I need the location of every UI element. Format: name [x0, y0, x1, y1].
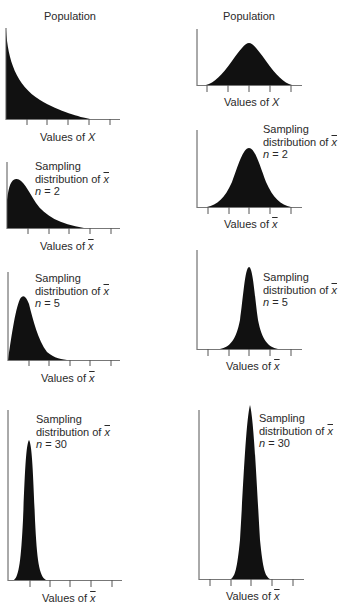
caption-line3: n = 2 — [35, 185, 109, 198]
caption-line2: distribution of x — [263, 284, 337, 297]
left-n30-axis-label: Values of x — [42, 592, 96, 605]
caption-line2: distribution of x — [263, 136, 337, 149]
caption-line2: distribution of x — [36, 426, 110, 439]
caption-line1: Sampling — [35, 272, 109, 285]
left-n5-caption: Sampling distribution of x n = 5 — [35, 272, 109, 310]
caption-line2: distribution of x — [35, 285, 109, 298]
caption-line1: Sampling — [35, 160, 109, 173]
left-population-plot — [6, 28, 120, 125]
right-n2-axis-label: Values of x — [224, 218, 278, 231]
right-population-title: Population — [223, 10, 275, 23]
right-population-plot — [197, 29, 302, 92]
right-n30-axis-label: Values of x — [226, 590, 280, 603]
right-n2-caption: Sampling distribution of x n = 2 — [263, 123, 337, 161]
caption-line3: n = 5 — [263, 296, 337, 309]
caption-line3: n = 5 — [35, 297, 109, 310]
caption-line1: Sampling — [263, 271, 337, 284]
right-n5-axis-label: Values of x — [226, 360, 280, 373]
caption-line2: distribution of x — [259, 425, 333, 438]
left-n2-axis-label: Values of x — [40, 240, 94, 253]
caption-line1: Sampling — [263, 123, 337, 136]
caption-line3: n = 2 — [263, 148, 337, 161]
left-population-title: Population — [44, 10, 96, 23]
left-n30-caption: Sampling distribution of x n = 30 — [36, 413, 110, 451]
right-n30-caption: Sampling distribution of x n = 30 — [259, 412, 333, 450]
right-n5-caption: Sampling distribution of x n = 5 — [263, 271, 337, 309]
left-population-axis-label: Values of X — [40, 131, 95, 144]
left-n2-caption: Sampling distribution of x n = 2 — [35, 160, 109, 198]
caption-line3: n = 30 — [36, 438, 110, 451]
axis-variable: X — [88, 131, 95, 143]
caption-line1: Sampling — [36, 413, 110, 426]
right-population-axis-label: Values of X — [224, 96, 279, 109]
left-n5-axis-label: Values of x — [41, 372, 95, 385]
caption-line1: Sampling — [259, 412, 333, 425]
caption-line3: n = 30 — [259, 437, 333, 450]
caption-line2: distribution of x — [35, 173, 109, 186]
axis-label-prefix: Values of — [40, 131, 88, 143]
